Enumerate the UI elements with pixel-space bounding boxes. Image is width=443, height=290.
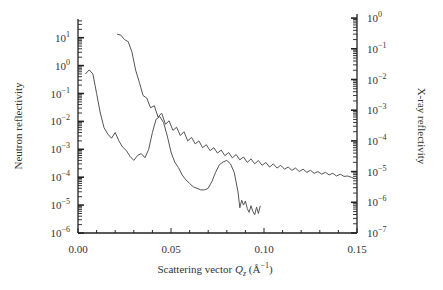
neutron-reflectivity-curve <box>85 70 260 215</box>
reflectivity-chart: 0.000.050.100.1510110010−110−210−310−410… <box>0 0 443 290</box>
y-tick-label-left: 10−5 <box>50 197 70 211</box>
xray-reflectivity-curve <box>117 34 355 179</box>
y-tick-label-right: 10−3 <box>367 102 387 116</box>
x-tick-label: 0.15 <box>347 243 367 255</box>
y-tick-label-left: 10−4 <box>50 169 70 183</box>
y-tick-label-left: 10−3 <box>50 141 70 155</box>
axes <box>78 14 357 233</box>
y-tick-label-right: 10−6 <box>367 194 387 208</box>
y-tick-label-left: 100 <box>55 58 70 72</box>
x-tick-label: 0.00 <box>68 243 88 255</box>
y-tick-label-right: 10−5 <box>367 164 387 178</box>
tick-labels: 0.000.050.100.1510110010−110−210−310−410… <box>50 10 386 255</box>
y-tick-label-right: 10−1 <box>367 41 387 55</box>
y-tick-label-right: 10−4 <box>367 133 387 147</box>
data-series <box>85 34 355 215</box>
x-axis-label: Scattering vector Qz (Å−1) <box>157 261 273 278</box>
tick-marks <box>78 18 357 233</box>
x-tick-label: 0.10 <box>254 243 274 255</box>
y-tick-label-right: 10−2 <box>367 72 387 86</box>
y-tick-label-left: 10−2 <box>50 113 70 127</box>
y-tick-label-right: 10−7 <box>367 225 387 239</box>
y-tick-label-left: 101 <box>55 30 70 44</box>
y-tick-label-left: 10−1 <box>50 86 70 100</box>
y-tick-label-right: 100 <box>367 10 382 24</box>
y-tick-label-left: 10−6 <box>50 225 70 239</box>
y-axis-label-right: X-ray reflectivity <box>416 88 428 165</box>
x-tick-label: 0.05 <box>161 243 181 255</box>
y-axis-label-left: Neutron reflectivity <box>12 82 24 170</box>
